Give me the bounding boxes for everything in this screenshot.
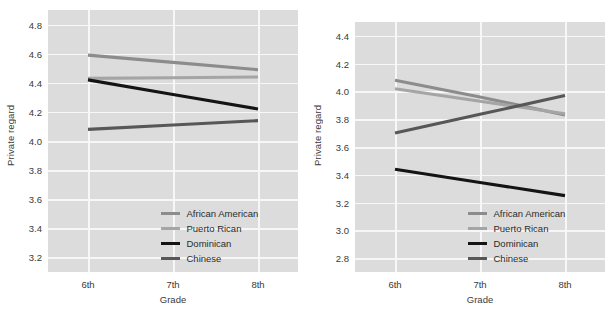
left-line-chinese [88,121,258,130]
legend-swatch-icon [468,227,487,230]
legend-swatch-icon [161,227,180,230]
left-line-african-american [88,55,258,70]
left-panel: Private regard 3.23.43.63.84.04.24.44.64… [0,0,307,318]
legend-item-label: Dominican [494,238,539,249]
left-line-puerto-rican [88,77,258,78]
left-legend: African AmericanPuerto RicanDominicanChi… [161,207,259,265]
left-series-lines [0,0,307,318]
right-legend: African AmericanPuerto RicanDominicanChi… [468,207,566,265]
right-legend-item-african-american[interactable]: African American [468,207,566,220]
legend-item-label: Puerto Rican [494,223,549,234]
left-legend-item-puerto-rican[interactable]: Puerto Rican [161,222,259,235]
two-panel-line-chart-figure: Private regard 3.23.43.63.84.04.24.44.64… [0,0,614,318]
left-legend-item-chinese[interactable]: Chinese [161,252,259,265]
legend-swatch-icon [161,212,180,215]
legend-swatch-icon [161,257,180,260]
legend-swatch-icon [468,212,487,215]
legend-item-label: Chinese [494,253,529,264]
right-legend-item-puerto-rican[interactable]: Puerto Rican [468,222,566,235]
left-legend-item-african-american[interactable]: African American [161,207,259,220]
right-legend-item-dominican[interactable]: Dominican [468,237,566,250]
right-line-dominican [395,169,565,195]
legend-swatch-icon [161,242,180,245]
legend-swatch-icon [468,257,487,260]
legend-swatch-icon [468,242,487,245]
right-panel: Private regard 2.83.03.23.43.63.84.04.24… [307,0,614,318]
right-panel-plot-wrapper: 2.83.03.23.43.63.84.04.24.46th7th8thGrad… [307,0,614,318]
legend-item-label: African American [187,208,259,219]
right-series-lines [307,0,614,318]
legend-item-label: Dominican [187,238,232,249]
left-line-dominican [88,80,258,109]
right-legend-item-chinese[interactable]: Chinese [468,252,566,265]
legend-item-label: Chinese [187,253,222,264]
legend-item-label: African American [494,208,566,219]
left-legend-item-dominican[interactable]: Dominican [161,237,259,250]
left-panel-plot-wrapper: 3.23.43.63.84.04.24.44.64.86th7th8thGrad… [0,0,307,318]
legend-item-label: Puerto Rican [187,223,242,234]
